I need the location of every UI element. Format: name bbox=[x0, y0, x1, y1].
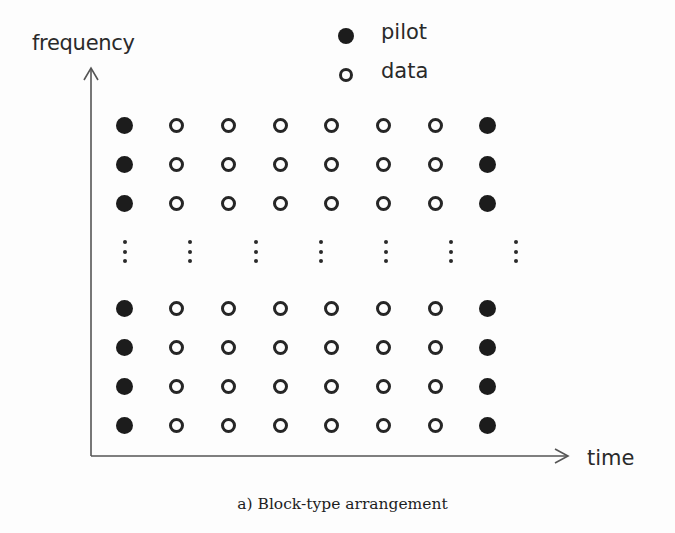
data-symbol-icon bbox=[324, 301, 339, 316]
block-type-pilot-diagram: frequency time pilot data a) Block-type … bbox=[0, 0, 675, 533]
axes bbox=[0, 0, 675, 533]
pilot-symbol-icon bbox=[116, 195, 133, 212]
data-symbol-icon bbox=[273, 118, 288, 133]
pilot-symbol-icon bbox=[479, 378, 496, 395]
legend-pilot-label: pilot bbox=[381, 20, 427, 44]
pilot-symbol-icon bbox=[116, 417, 133, 434]
data-symbol-icon bbox=[169, 418, 184, 433]
data-symbol-icon bbox=[428, 301, 443, 316]
data-symbol-icon bbox=[428, 340, 443, 355]
data-symbol-icon bbox=[428, 196, 443, 211]
data-symbol-icon bbox=[273, 418, 288, 433]
data-symbol-icon bbox=[376, 118, 391, 133]
data-symbol-icon bbox=[324, 196, 339, 211]
figure-caption: a) Block-type arrangement bbox=[0, 494, 675, 514]
data-symbol-icon bbox=[324, 157, 339, 172]
x-axis-label: time bbox=[587, 445, 634, 471]
pilot-symbol-icon bbox=[116, 339, 133, 356]
data-symbol-icon bbox=[324, 379, 339, 394]
data-symbol-icon bbox=[273, 196, 288, 211]
data-symbol-icon bbox=[169, 118, 184, 133]
data-symbol-icon bbox=[221, 196, 236, 211]
pilot-symbol-icon bbox=[479, 156, 496, 173]
pilot-symbol-icon bbox=[116, 117, 133, 134]
legend-pilot-marker-icon bbox=[338, 28, 354, 44]
data-symbol-icon bbox=[169, 301, 184, 316]
data-symbol-icon bbox=[376, 418, 391, 433]
data-symbol-icon bbox=[376, 379, 391, 394]
data-symbol-icon bbox=[169, 157, 184, 172]
data-symbol-icon bbox=[169, 340, 184, 355]
data-symbol-icon bbox=[169, 379, 184, 394]
pilot-symbol-icon bbox=[479, 339, 496, 356]
data-symbol-icon bbox=[428, 379, 443, 394]
data-symbol-icon bbox=[273, 301, 288, 316]
legend-data-label: data bbox=[381, 59, 428, 83]
pilot-symbol-icon bbox=[479, 195, 496, 212]
data-symbol-icon bbox=[324, 418, 339, 433]
data-symbol-icon bbox=[169, 196, 184, 211]
data-symbol-icon bbox=[428, 157, 443, 172]
y-axis-label: frequency bbox=[32, 30, 135, 56]
pilot-symbol-icon bbox=[116, 378, 133, 395]
pilot-symbol-icon bbox=[116, 156, 133, 173]
data-symbol-icon bbox=[376, 340, 391, 355]
pilot-symbol-icon bbox=[479, 117, 496, 134]
data-symbol-icon bbox=[273, 379, 288, 394]
legend-data-marker-icon bbox=[339, 68, 353, 82]
pilot-symbol-icon bbox=[479, 417, 496, 434]
data-symbol-icon bbox=[221, 379, 236, 394]
data-symbol-icon bbox=[376, 301, 391, 316]
pilot-symbol-icon bbox=[479, 300, 496, 317]
data-symbol-icon bbox=[221, 340, 236, 355]
pilot-symbol-icon bbox=[116, 300, 133, 317]
data-symbol-icon bbox=[221, 118, 236, 133]
data-symbol-icon bbox=[376, 157, 391, 172]
data-symbol-icon bbox=[324, 118, 339, 133]
data-symbol-icon bbox=[428, 118, 443, 133]
data-symbol-icon bbox=[324, 340, 339, 355]
data-symbol-icon bbox=[221, 157, 236, 172]
data-symbol-icon bbox=[273, 340, 288, 355]
data-symbol-icon bbox=[376, 196, 391, 211]
data-symbol-icon bbox=[273, 157, 288, 172]
data-symbol-icon bbox=[221, 301, 236, 316]
data-symbol-icon bbox=[428, 418, 443, 433]
data-symbol-icon bbox=[221, 418, 236, 433]
